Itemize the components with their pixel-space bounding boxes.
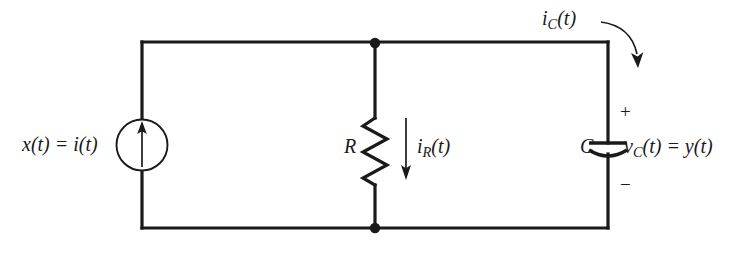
capacitor-current-subscript: C: [548, 16, 558, 32]
node-dot-bottom: [370, 223, 380, 233]
capacitor-current-suffix: (t): [557, 7, 576, 29]
resistor-current-suffix: (t): [431, 135, 450, 157]
capacitor-label: C: [580, 136, 593, 156]
capacitor-current-arrow-head: [631, 52, 643, 68]
resistor-current-label: iR(t): [417, 136, 450, 159]
resistor-current-arrow: [401, 118, 411, 180]
capacitor-voltage-label: vC(t) = y(t): [624, 136, 713, 159]
resistor-label: R: [344, 136, 356, 156]
capacitor-voltage-subscript: C: [633, 144, 643, 160]
resistor-zigzag: [363, 118, 387, 185]
capacitor-voltage-base: v: [624, 135, 633, 157]
current-source-label: x(t) = i(t): [22, 134, 98, 154]
current-source-symbol: [117, 120, 168, 171]
circuit-wires: [142, 42, 608, 228]
capacitor-current-label: iC(t): [542, 8, 576, 31]
node-dot-top: [370, 38, 380, 48]
circuit-diagram-figure: x(t) = i(t) R iR(t) C vC(t) = y(t) iC(t)…: [0, 0, 749, 260]
capacitor-voltage-suffix: (t) = y(t): [643, 135, 713, 157]
polarity-plus-label: +: [620, 102, 631, 121]
polarity-minus-label: −: [620, 175, 631, 194]
circuit-schematic-svg: [0, 0, 749, 260]
